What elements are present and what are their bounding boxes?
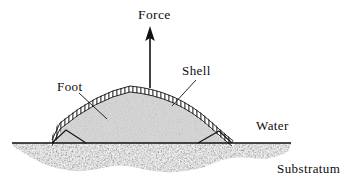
force-label: Force [138,8,171,22]
shell-label: Shell [182,64,211,77]
diagram-canvas [0,0,352,185]
substratum-label: Substratum [277,162,340,175]
water-label: Water [256,119,289,132]
substratum-region [10,141,294,177]
foot-label: Foot [57,80,82,93]
diagram-figure: Force Shell Foot Water Substratum [0,0,352,185]
